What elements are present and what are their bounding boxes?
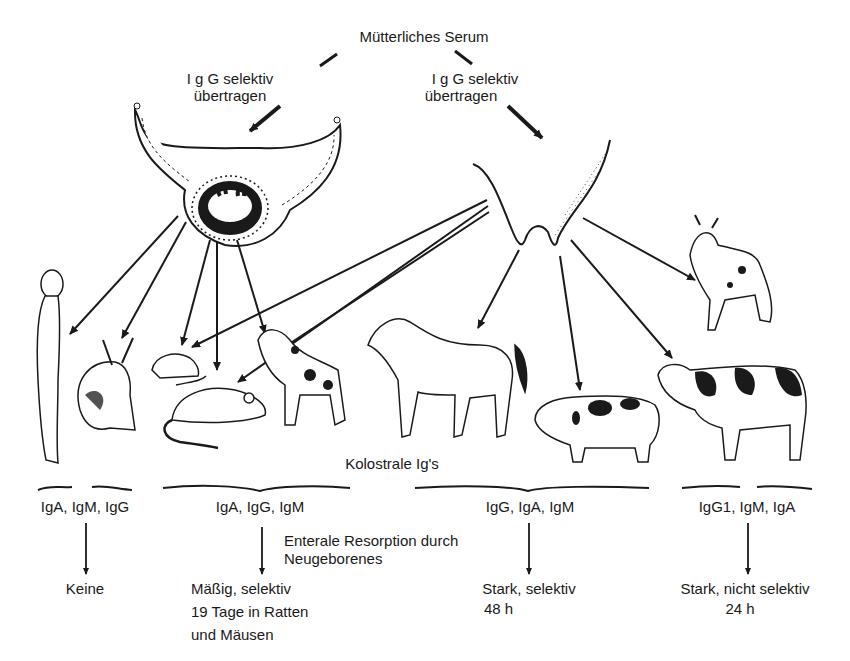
human-figure [37, 270, 63, 463]
group-2-result-line3: und Mäusen [191, 626, 274, 644]
group-2-result-line2: 19 Tage in Ratten [191, 603, 308, 621]
group-1-result: Keine [66, 580, 104, 598]
pig-figure [535, 396, 659, 462]
group-2-ig: IgA, IgG, IgM [216, 498, 304, 516]
udder-illustration [473, 140, 610, 245]
group-4-result-line2: 24 h [725, 600, 754, 618]
rabbit-figure [78, 338, 135, 430]
group-3-result-line2: 48 h [484, 600, 513, 618]
mouse-figure [164, 388, 265, 448]
placenta-illustration [134, 103, 341, 246]
absorption-label-line2: Neugeborenes [284, 550, 382, 568]
maternal-serum-title: Mütterliches Serum [359, 28, 488, 46]
transfer-right-line2: übertragen [425, 87, 498, 105]
dog-figure [258, 330, 345, 425]
serum-arrows [250, 51, 542, 138]
goat-figure [690, 215, 772, 330]
group-1-ig: IgA, IgM, IgG [41, 498, 129, 516]
group-3-result-line1: Stark, selektiv [482, 580, 575, 598]
group-4-ig: IgG1, IgM, IgA [699, 498, 796, 516]
transfer-left-line1: I g G selektiv [187, 70, 274, 88]
absorption-label-line1: Enterale Resorption durch [284, 532, 458, 550]
group-4-result-line1: Stark, nicht selektiv [680, 580, 809, 598]
transfer-right-line1: I g G selektiv [432, 70, 519, 88]
transfer-left-line2: übertragen [194, 87, 267, 105]
rat-figure [152, 354, 206, 385]
colostral-ig-label: Kolostrale Ig's [345, 455, 439, 473]
cow-figure [658, 365, 806, 460]
group-2-result-line1: Mäßig, selektiv [191, 580, 291, 598]
horse-figure [368, 319, 527, 437]
group-3-ig: IgG, IgA, IgM [486, 498, 574, 516]
group-braces [38, 486, 812, 491]
